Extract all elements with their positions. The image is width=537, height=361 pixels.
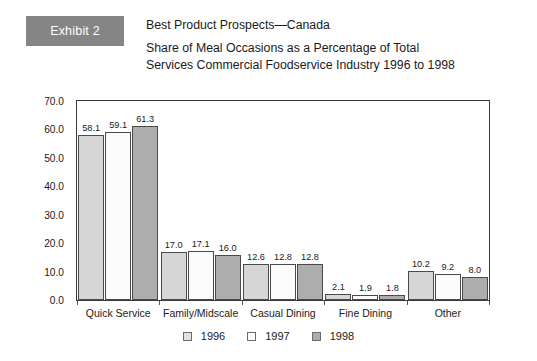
legend-item-1998[interactable]: 1998 bbox=[312, 330, 354, 342]
bar-1996[interactable] bbox=[78, 135, 104, 300]
bar-container: 16.0 bbox=[215, 101, 241, 300]
bar-1997[interactable] bbox=[352, 295, 378, 300]
x-axis-labels: Quick ServiceFamily/MidscaleCasual Dinin… bbox=[77, 307, 489, 319]
x-axis-tick-mark bbox=[489, 301, 490, 305]
exhibit-badge: Exhibit 2 bbox=[26, 16, 124, 46]
chart-legend: 199619971998 bbox=[0, 330, 537, 342]
x-axis-category-label: Fine Dining bbox=[324, 307, 406, 319]
bar-container: 61.3 bbox=[132, 101, 158, 300]
title-line-3: Services Commercial Foodservice Industry… bbox=[146, 57, 455, 75]
bar-container: 59.1 bbox=[105, 101, 131, 300]
bar-value-label: 59.1 bbox=[109, 120, 127, 130]
bar-group: 10.29.28.0 bbox=[407, 101, 489, 300]
bar-1996[interactable] bbox=[243, 264, 269, 300]
bar-chart: 0.010.020.030.040.050.060.070.0 58.159.1… bbox=[0, 92, 537, 307]
legend-swatch-icon bbox=[183, 332, 192, 341]
bar-value-label: 9.2 bbox=[441, 262, 454, 272]
bars-region: 58.159.161.317.017.116.012.612.812.82.11… bbox=[77, 101, 489, 300]
x-axis-tick-mark bbox=[324, 301, 325, 305]
bar-1997[interactable] bbox=[188, 251, 214, 300]
title-block: Best Product Prospects—Canada Share of M… bbox=[146, 16, 455, 75]
bar-group: 12.612.812.8 bbox=[242, 101, 324, 300]
bar-container: 9.2 bbox=[435, 101, 461, 300]
x-axis-category-label: Casual Dining bbox=[242, 307, 324, 319]
bar-container: 12.6 bbox=[243, 101, 269, 300]
bar-1998[interactable] bbox=[379, 295, 405, 300]
x-axis-category-label: Family/Midscale bbox=[159, 307, 241, 319]
legend-swatch-icon bbox=[247, 332, 256, 341]
x-axis-category-label: Quick Service bbox=[77, 307, 159, 319]
bar-container: 1.9 bbox=[352, 101, 378, 300]
bar-container: 17.0 bbox=[161, 101, 187, 300]
y-axis-tick-label: 10.0 bbox=[44, 266, 64, 277]
x-axis-tick-mark bbox=[77, 301, 78, 305]
bar-1996[interactable] bbox=[325, 294, 351, 300]
legend-label: 1996 bbox=[201, 330, 225, 342]
bar-value-label: 12.8 bbox=[274, 252, 292, 262]
y-axis-tick-label: 0.0 bbox=[50, 295, 64, 306]
bar-value-label: 12.6 bbox=[247, 252, 265, 262]
x-axis-ticks bbox=[77, 301, 489, 306]
bar-value-label: 2.1 bbox=[332, 282, 345, 292]
x-axis-tick-mark bbox=[159, 301, 160, 305]
bar-value-label: 8.0 bbox=[468, 265, 481, 275]
bar-container: 12.8 bbox=[270, 101, 296, 300]
legend-label: 1997 bbox=[265, 330, 289, 342]
title-line-1: Best Product Prospects—Canada bbox=[146, 17, 455, 35]
title-line-2: Share of Meal Occasions as a Percentage … bbox=[146, 40, 455, 58]
bar-value-label: 1.9 bbox=[359, 283, 372, 293]
x-axis-tick-mark bbox=[407, 301, 408, 305]
bar-container: 8.0 bbox=[462, 101, 488, 300]
legend-item-1996[interactable]: 1996 bbox=[183, 330, 225, 342]
y-axis-tick-label: 40.0 bbox=[44, 181, 64, 192]
y-axis-tick-label: 30.0 bbox=[44, 209, 64, 220]
exhibit-header: Exhibit 2 Best Product Prospects—Canada … bbox=[26, 16, 516, 75]
bar-value-label: 61.3 bbox=[136, 114, 154, 124]
bar-1998[interactable] bbox=[462, 277, 488, 300]
bar-container: 12.8 bbox=[297, 101, 323, 300]
bar-value-label: 12.8 bbox=[301, 252, 319, 262]
y-axis-tick-label: 20.0 bbox=[44, 238, 64, 249]
bar-1998[interactable] bbox=[215, 255, 241, 300]
y-axis-tick-label: 50.0 bbox=[44, 152, 64, 163]
y-axis-tick-label: 60.0 bbox=[44, 124, 64, 135]
bar-1998[interactable] bbox=[132, 126, 158, 300]
bar-1997[interactable] bbox=[105, 132, 131, 300]
bar-container: 1.8 bbox=[379, 101, 405, 300]
y-axis-tick-label: 70.0 bbox=[44, 96, 64, 107]
bar-container: 10.2 bbox=[408, 101, 434, 300]
bar-group: 17.017.116.0 bbox=[159, 101, 241, 300]
bar-group: 58.159.161.3 bbox=[77, 101, 159, 300]
bar-1996[interactable] bbox=[161, 252, 187, 300]
bar-1998[interactable] bbox=[297, 264, 323, 300]
bar-value-label: 58.1 bbox=[82, 123, 100, 133]
bar-group: 2.11.91.8 bbox=[324, 101, 406, 300]
y-axis: 0.010.020.030.040.050.060.070.0 bbox=[8, 92, 70, 309]
bar-1997[interactable] bbox=[435, 274, 461, 300]
legend-label: 1998 bbox=[330, 330, 354, 342]
bar-value-label: 16.0 bbox=[219, 243, 237, 253]
legend-swatch-icon bbox=[312, 332, 321, 341]
bar-value-label: 17.1 bbox=[192, 239, 210, 249]
bar-value-label: 1.8 bbox=[386, 283, 399, 293]
bar-container: 58.1 bbox=[78, 101, 104, 300]
bar-value-label: 17.0 bbox=[165, 240, 183, 250]
bar-1997[interactable] bbox=[270, 264, 296, 300]
x-axis-category-label: Other bbox=[407, 307, 489, 319]
bar-container: 2.1 bbox=[325, 101, 351, 300]
x-axis-tick-mark bbox=[242, 301, 243, 305]
bar-container: 17.1 bbox=[188, 101, 214, 300]
bar-value-label: 10.2 bbox=[412, 259, 430, 269]
bar-1996[interactable] bbox=[408, 271, 434, 300]
legend-item-1997[interactable]: 1997 bbox=[247, 330, 289, 342]
